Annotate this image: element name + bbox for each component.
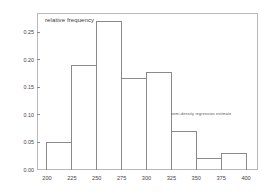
x-axis-tick-label: 400 <box>234 175 258 181</box>
y-axis-tick-label: 0.05 <box>4 139 34 145</box>
y-axis-tick-label: 0.20 <box>4 57 34 63</box>
histogram-chart: relative frequency semi-density regressi… <box>0 0 272 194</box>
x-axis-tick-label: 325 <box>159 175 183 181</box>
plot-canvas <box>37 13 258 170</box>
series-annotation-label: semi-density regression estimate <box>171 112 232 116</box>
y-axis-ticks <box>37 32 40 170</box>
y-axis-label: relative frequency <box>45 17 94 23</box>
histogram-bar <box>147 72 172 170</box>
y-axis-tick-label: 0.15 <box>4 84 34 90</box>
histogram-bar <box>122 78 147 170</box>
x-axis-tick-label: 225 <box>60 175 84 181</box>
x-axis-tick-label: 350 <box>184 175 208 181</box>
x-axis-tick-label: 200 <box>35 175 59 181</box>
histogram-bar <box>221 153 246 170</box>
y-axis-tick-label: 0.25 <box>4 29 34 35</box>
x-axis-tick-label: 375 <box>209 175 233 181</box>
x-axis-tick-label: 275 <box>110 175 134 181</box>
y-axis-tick-labels: 0.000.050.100.150.200.25 <box>0 0 34 194</box>
plot-svg <box>37 13 258 170</box>
x-axis-tick-labels: 200225250275300325350375400 <box>0 175 272 187</box>
y-axis-tick-label: 0.10 <box>4 112 34 118</box>
y-axis-tick-label: 0.00 <box>4 167 34 173</box>
x-axis-tick-label: 300 <box>135 175 159 181</box>
histogram-bar <box>171 131 196 170</box>
histogram-bar <box>72 65 97 170</box>
histogram-bar <box>47 142 72 170</box>
x-axis-tick-label: 250 <box>85 175 109 181</box>
histogram-bar <box>97 21 122 170</box>
bars-group <box>37 21 258 170</box>
histogram-bar <box>196 159 221 170</box>
x-axis-ticks <box>47 166 246 170</box>
